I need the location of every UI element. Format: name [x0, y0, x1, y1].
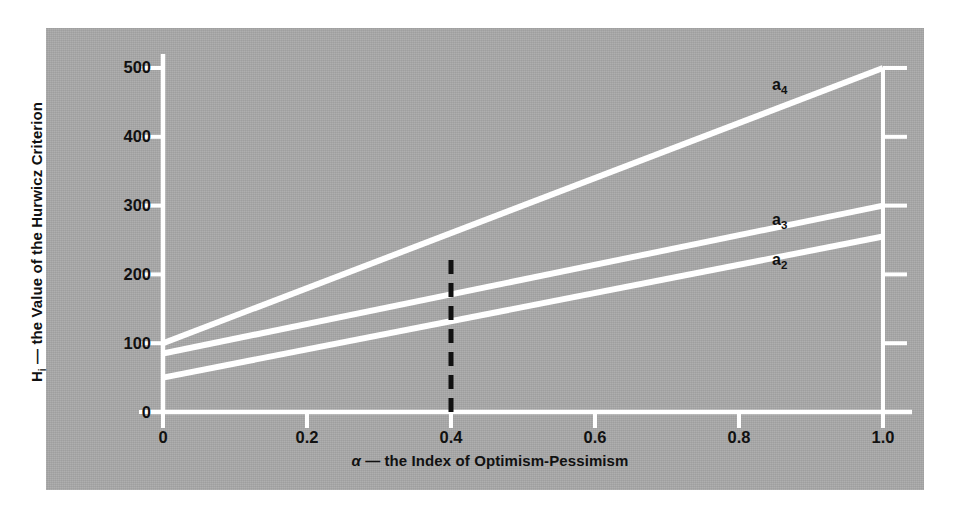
x-axis-title-rest: — the Index of Optimism-Pessimism [361, 452, 629, 469]
x-tick-label-0-4: 0.4 [421, 428, 481, 447]
chart-ticks [139, 68, 907, 428]
series-line-a4 [163, 68, 883, 343]
y-tick-label-300: 300 [95, 196, 151, 215]
y-tick-label-100: 100 [95, 334, 151, 353]
y-tick-label-0: 0 [95, 403, 151, 422]
y-axis-title-rest: — the Value of the Hurwicz Criterion [28, 102, 45, 368]
y-axis-subscript: i [37, 368, 48, 371]
y-tick-label-200: 200 [95, 265, 151, 284]
figure-container: 500 400 300 200 100 0 0 0.2 0.4 0.6 0.8 … [0, 0, 971, 531]
y-axis-title: Hi — the Value of the Hurwicz Criterion [28, 82, 48, 402]
series-label-a4-sub: 4 [781, 84, 787, 96]
series-label-a2-text: a [772, 251, 781, 268]
x-tick-label-1-0: 1.0 [853, 428, 913, 447]
series-label-a3-sub: 3 [781, 219, 787, 231]
series-label-a4: a4 [772, 76, 787, 96]
series-label-a3: a3 [772, 211, 787, 231]
y-axis-symbol: H [28, 371, 45, 382]
x-axis-title: α — the Index of Optimism-Pessimism [280, 452, 700, 469]
x-tick-label-0-2: 0.2 [277, 428, 337, 447]
x-tick-label-0-8: 0.8 [709, 428, 769, 447]
y-tick-label-400: 400 [95, 127, 151, 146]
series-label-a2-sub: 2 [781, 259, 787, 271]
x-axis-symbol: α [351, 452, 360, 469]
y-tick-label-500: 500 [95, 58, 151, 77]
series-label-a3-text: a [772, 211, 781, 228]
x-tick-label-0: 0 [133, 428, 193, 447]
x-tick-label-0-6: 0.6 [565, 428, 625, 447]
series-label-a4-text: a [772, 76, 781, 93]
series-label-a2: a2 [772, 251, 787, 271]
